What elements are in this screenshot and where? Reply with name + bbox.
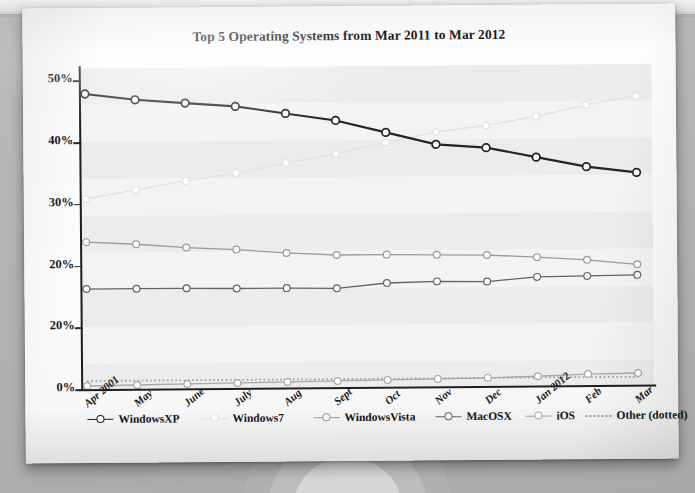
- data-point-marker: [432, 141, 440, 149]
- data-point-marker: [585, 371, 592, 378]
- data-point-marker: [282, 110, 290, 118]
- data-point-marker: [83, 239, 90, 246]
- y-axis-tick-label: 30%: [34, 195, 74, 210]
- legend-line-swatch: [585, 410, 611, 420]
- legend-label: Other (dotted): [616, 408, 687, 421]
- data-point-marker: [633, 169, 641, 177]
- data-point-marker: [382, 129, 390, 137]
- y-axis-tick-label: 40%: [33, 133, 73, 148]
- series-line: [86, 238, 637, 269]
- series-line: [85, 90, 637, 177]
- y-axis-labels: 50%40%30%20%20%0%: [31, 48, 76, 398]
- legend-item[interactable]: WindowsVista: [313, 410, 415, 423]
- y-axis-tick-label: 0%: [35, 380, 75, 395]
- data-point-marker: [81, 90, 89, 98]
- y-axis-tick: [75, 327, 83, 329]
- data-point-marker: [282, 159, 289, 166]
- plot-region: 50%40%30%20%20%0% Apr 2001MayJuneJulyAug…: [35, 44, 668, 399]
- data-point-marker: [483, 252, 490, 259]
- data-point-marker: [231, 103, 239, 111]
- data-point-marker: [584, 272, 591, 279]
- x-axis-tick-label: Dec: [482, 385, 503, 406]
- y-axis-tick-label: 20%: [34, 257, 74, 272]
- plot-area: [79, 64, 655, 389]
- y-axis-tick: [74, 204, 82, 206]
- data-point-marker: [183, 244, 190, 251]
- data-point-marker: [434, 278, 441, 285]
- data-point-marker: [583, 163, 591, 171]
- legend-label: WindowsVista: [344, 410, 415, 423]
- legend-line-swatch: [435, 411, 461, 421]
- data-point-marker: [233, 246, 240, 253]
- data-point-marker: [234, 380, 241, 387]
- data-point-marker: [183, 285, 190, 292]
- x-axis-tick-label: Nov: [432, 385, 454, 406]
- data-point-marker: [535, 373, 542, 380]
- data-point-marker: [634, 261, 641, 268]
- data-point-marker: [534, 254, 541, 261]
- y-axis-tick: [75, 389, 83, 391]
- y-axis-tick-label: 20%: [35, 318, 75, 333]
- printed-page: Top 5 Operating Systems from Mar 2011 to…: [22, 3, 679, 463]
- data-point-marker: [333, 285, 340, 292]
- data-point-marker: [432, 129, 439, 136]
- data-point-marker: [333, 252, 340, 259]
- legend-item[interactable]: WindowsXP: [87, 412, 179, 425]
- y-axis-tick-label: 50%: [33, 72, 73, 87]
- series-line: [85, 96, 637, 199]
- data-point-marker: [332, 117, 340, 125]
- data-point-marker: [584, 256, 591, 263]
- legend-item[interactable]: iOS: [525, 409, 575, 421]
- data-point-marker: [633, 92, 640, 99]
- data-point-marker: [634, 271, 641, 278]
- data-point-marker: [184, 381, 191, 388]
- legend-item[interactable]: Other (dotted): [585, 408, 687, 421]
- data-point-marker: [383, 251, 390, 258]
- data-point-marker: [334, 378, 341, 385]
- data-point-marker: [332, 150, 339, 157]
- legend-label: WindowsXP: [118, 412, 179, 424]
- y-axis-tick: [73, 142, 81, 144]
- data-point-marker: [532, 153, 540, 161]
- legend-label: MacOSX: [466, 410, 511, 422]
- data-point-marker: [532, 113, 539, 120]
- legend-label: Windows7: [232, 412, 284, 424]
- data-point-marker: [582, 101, 589, 108]
- data-point-marker: [83, 286, 90, 293]
- y-axis-tick: [73, 80, 81, 82]
- data-point-marker: [384, 376, 391, 383]
- x-axis-tick-label: Feb: [582, 385, 603, 406]
- legend-item[interactable]: Windows7: [201, 412, 284, 425]
- data-point-marker: [534, 273, 541, 280]
- legend-line-swatch: [313, 412, 339, 422]
- data-point-marker: [233, 285, 240, 292]
- data-point-marker: [82, 196, 89, 203]
- x-axis-tick-label: Oct: [382, 387, 402, 406]
- data-point-marker: [484, 374, 491, 381]
- data-point-marker: [635, 370, 642, 377]
- data-point-marker: [433, 251, 440, 258]
- data-point-marker: [283, 250, 290, 257]
- legend-label: iOS: [556, 409, 575, 421]
- chart-legend: WindowsXPWindows7WindowsVistaMacOSXiOSOt…: [25, 408, 678, 447]
- legend-item[interactable]: MacOSX: [435, 410, 511, 423]
- data-point-marker: [283, 285, 290, 292]
- legend-line-swatch: [87, 414, 113, 424]
- data-point-marker: [284, 379, 291, 386]
- legend-line-swatch: [201, 413, 227, 423]
- series-layer: [79, 64, 655, 389]
- data-point-marker: [482, 122, 489, 129]
- data-point-marker: [384, 280, 391, 287]
- data-point-marker: [482, 144, 490, 152]
- data-point-marker: [484, 278, 491, 285]
- data-point-marker: [134, 382, 141, 389]
- data-point-marker: [232, 170, 239, 177]
- series-line: [86, 275, 637, 290]
- data-point-marker: [131, 96, 139, 104]
- photo-background: Top 5 Operating Systems from Mar 2011 to…: [0, 0, 695, 493]
- data-point-marker: [133, 241, 140, 248]
- data-point-marker: [382, 139, 389, 146]
- legend-line-swatch: [525, 410, 551, 420]
- data-point-marker: [181, 99, 189, 107]
- data-point-marker: [434, 375, 441, 382]
